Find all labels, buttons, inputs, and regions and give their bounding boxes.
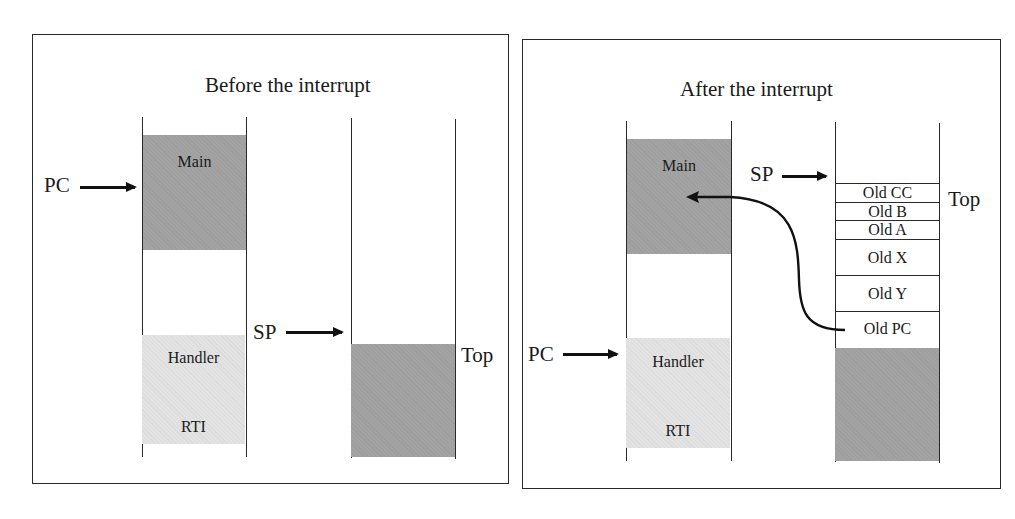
return-address-arrow-icon (0, 0, 1015, 519)
